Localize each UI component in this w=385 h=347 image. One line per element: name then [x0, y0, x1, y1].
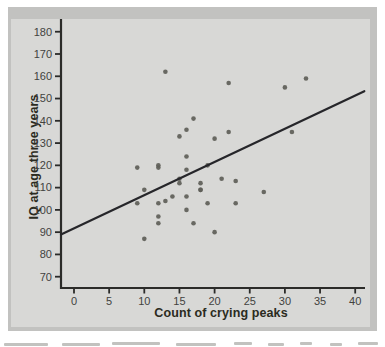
x-tick-label: 40 [349, 295, 361, 307]
data-point [233, 201, 238, 206]
x-tick-label: 30 [279, 295, 291, 307]
cropped-caption-text-remnant [0, 336, 385, 347]
y-tick-label: 100 [34, 204, 52, 216]
x-tick-label: 20 [208, 295, 220, 307]
y-tick-label: 110 [34, 181, 52, 193]
data-point [142, 188, 147, 193]
scatter-plot-crying-vs-iq: Count of crying peaks IQ at age three ye… [0, 0, 385, 347]
data-point [184, 154, 189, 159]
data-point [198, 181, 203, 186]
x-tick-label: 0 [71, 295, 77, 307]
data-point [156, 214, 161, 219]
data-point [184, 208, 189, 213]
data-point [184, 194, 189, 199]
page: { "figure_panel": { "background": "#d8d8… [0, 0, 385, 347]
data-point [198, 188, 203, 193]
y-tick-label: 90 [40, 226, 52, 238]
x-tick-label: 35 [314, 295, 326, 307]
y-tick-label: 80 [40, 248, 52, 260]
x-tick-label: 5 [106, 295, 112, 307]
data-point [219, 176, 224, 181]
data-point [212, 136, 217, 141]
y-tick-label: 170 [34, 48, 52, 60]
y-tick-label: 160 [34, 70, 52, 82]
data-point [304, 76, 309, 81]
data-point [177, 134, 182, 139]
data-point [226, 81, 231, 86]
data-point [156, 163, 161, 168]
data-point [233, 179, 238, 184]
data-point [262, 190, 267, 195]
data-point [135, 201, 140, 206]
y-axis-title: IQ at age three years [27, 94, 41, 219]
regression-line [61, 91, 364, 234]
data-point [212, 230, 217, 235]
data-point [184, 168, 189, 173]
data-point [205, 201, 210, 206]
data-point [191, 116, 196, 121]
data-point [290, 130, 295, 135]
data-point [226, 130, 231, 135]
y-tick-label: 120 [34, 159, 52, 171]
y-tick-label: 180 [34, 26, 52, 38]
x-tick-label: 25 [244, 295, 256, 307]
data-point [163, 70, 168, 75]
data-point [142, 237, 147, 242]
data-point [177, 181, 182, 186]
y-tick-label: 70 [40, 271, 52, 283]
data-point [163, 199, 168, 204]
x-tick-label: 10 [138, 295, 150, 307]
y-tick-label: 130 [34, 137, 52, 149]
x-tick-label: 15 [173, 295, 185, 307]
y-tick-label: 140 [34, 115, 52, 127]
data-point [156, 201, 161, 206]
data-point [191, 221, 196, 226]
data-point [283, 85, 288, 90]
data-point [170, 194, 175, 199]
data-point [184, 127, 189, 132]
data-point [156, 221, 161, 226]
data-point [135, 165, 140, 170]
x-axis-title: Count of crying peaks [154, 306, 287, 320]
y-tick-label: 150 [34, 92, 52, 104]
